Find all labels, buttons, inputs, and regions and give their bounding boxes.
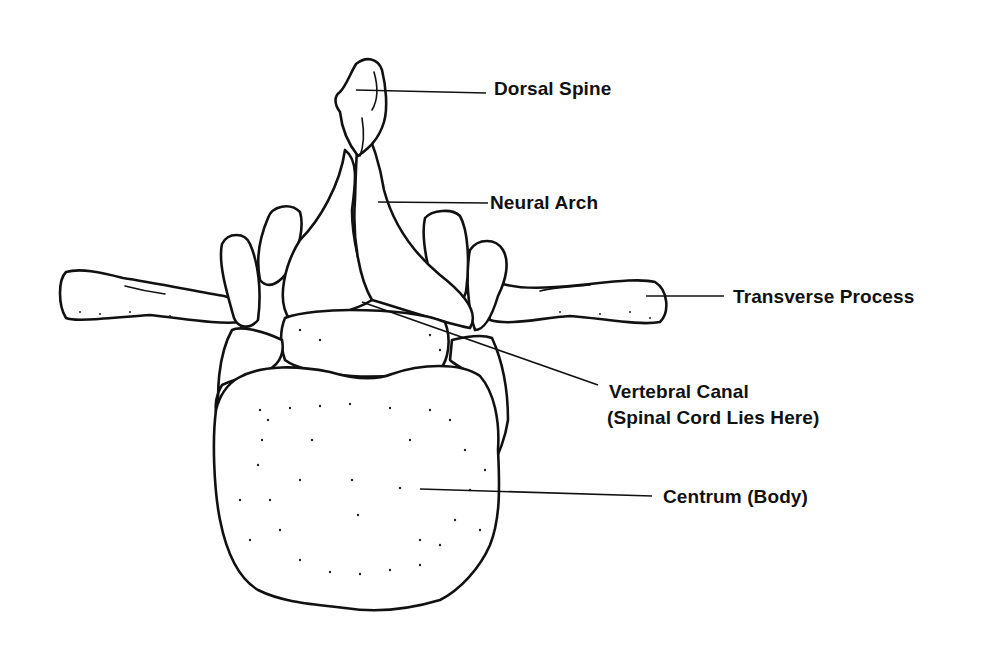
- label-transverse-process: Transverse Process: [733, 285, 914, 308]
- label-dorsal-spine: Dorsal Spine: [494, 77, 611, 100]
- label-vertebral-canal-subtext: (Spinal Cord Lies Here): [607, 406, 819, 429]
- dorsal-spine: [336, 59, 387, 156]
- label-neural-arch: Neural Arch: [490, 191, 598, 214]
- leader-neural-arch: [378, 202, 488, 203]
- left-transverse-process: [60, 270, 244, 322]
- label-vertebral-canal: Vertebral Canal: [609, 380, 749, 403]
- centrum: [214, 366, 499, 610]
- label-centrum: Centrum (Body): [663, 485, 808, 508]
